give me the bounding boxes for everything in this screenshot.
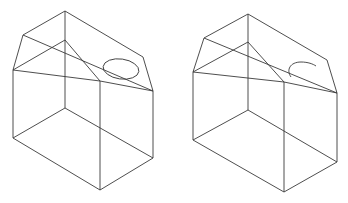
edge-top-front-left [13,70,100,81]
edge-top-left [23,11,65,35]
edge-bottom-front-right [100,158,153,190]
edge-bottom-back-right [248,110,337,162]
edge-top-front-left [193,72,284,82]
edge-bottom-back-left [13,108,65,138]
edge-top-left [204,14,248,38]
edge-inner-front [248,42,284,82]
wireframe-box-left [13,11,153,190]
edge-inner-left [13,40,65,70]
edge-top-front-right [100,81,153,91]
edge-top-right [65,11,143,57]
edge-bottom-front-left [13,138,100,190]
edge-ridge-front [204,38,337,93]
edge-inner-front [65,40,100,81]
wireframe-box-right [193,14,337,192]
edge-chamfer-right [143,57,153,91]
edge-top-right [248,14,327,60]
edge-bottom-back-left [193,110,248,140]
edge-bottom-back-right [65,108,153,158]
diagram-canvas [0,0,348,203]
edge-top-front-right [284,82,337,93]
edge-bottom-front-left [193,140,284,192]
edge-bottom-front-right [284,162,337,192]
edge-chamfer-right [327,60,337,93]
